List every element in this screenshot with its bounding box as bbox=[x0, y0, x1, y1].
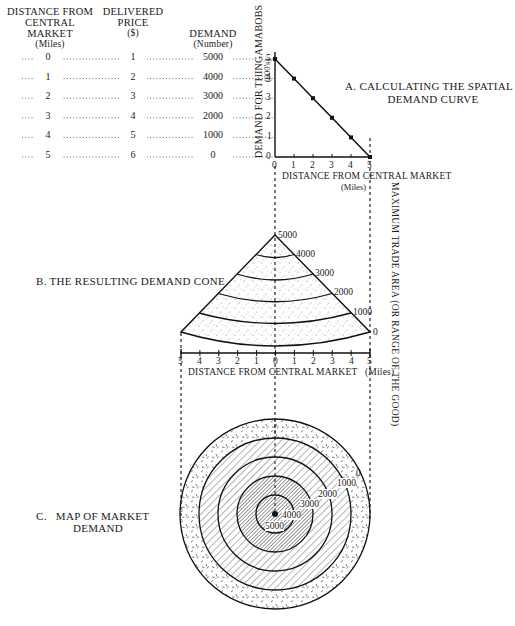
xtick: 1 bbox=[254, 356, 259, 366]
ytick: 5 bbox=[266, 53, 271, 63]
ytick: 0 bbox=[266, 151, 271, 161]
cone-label-0: 0 bbox=[373, 327, 378, 337]
xtick: 3 bbox=[329, 160, 334, 170]
cell-price: 5 bbox=[119, 129, 147, 140]
ytick: 1 bbox=[267, 131, 272, 141]
cell-demand: 3000 bbox=[194, 90, 232, 101]
cell-price: 1 bbox=[119, 51, 147, 62]
panel-b-title: B. THE RESULTING DEMAND CONE bbox=[36, 275, 225, 287]
cone-label-1000: 1000 bbox=[353, 307, 372, 317]
cell-price: 6 bbox=[119, 149, 147, 160]
xtick: 0 bbox=[272, 160, 277, 170]
cell-distance: 4 bbox=[33, 129, 63, 140]
ytick: 4 bbox=[266, 72, 271, 82]
xtick: 5 bbox=[367, 160, 372, 170]
map-label-3000: 3000 bbox=[300, 499, 319, 509]
xtick: 4 bbox=[348, 160, 353, 170]
cell-distance: 2 bbox=[33, 90, 63, 101]
panel-a-xlabel: DISTANCE FROM CENTRAL MARKET bbox=[282, 171, 451, 181]
map-label-2000: 2000 bbox=[318, 489, 337, 499]
cell-price: 2 bbox=[119, 71, 147, 82]
cell-demand: 0 bbox=[194, 149, 232, 160]
cone-label-4000: 4000 bbox=[296, 249, 315, 259]
map-label-0: 0 bbox=[356, 468, 361, 478]
panel-a-title: A. CALCULATING THE SPATIAL DEMAND CURVE bbox=[348, 80, 515, 105]
xtick: 3 bbox=[330, 356, 335, 366]
panel-c-title-line1: C. MAP OF MARKET bbox=[36, 510, 149, 522]
cell-price: 4 bbox=[119, 110, 147, 121]
cell-price: 3 bbox=[119, 90, 147, 101]
ytick: 2 bbox=[266, 111, 271, 121]
xtick: 4 bbox=[197, 356, 202, 366]
xtick: 4 bbox=[349, 356, 354, 366]
cell-demand: 2000 bbox=[194, 110, 232, 121]
cell-distance: 0 bbox=[33, 51, 63, 62]
max-trade-area-label: MAXIMUM TRADE AREA (OR RANGE OF THE GOOD… bbox=[390, 182, 400, 426]
xtick: 0 bbox=[273, 356, 278, 366]
panel-a-title-line2: DEMAND CURVE bbox=[348, 93, 515, 105]
xtick: 3 bbox=[216, 356, 221, 366]
xtick: 2 bbox=[311, 356, 316, 366]
demand-curve-line bbox=[275, 59, 370, 157]
xtick: 5 bbox=[178, 356, 183, 366]
panel-a-title-line1: A. CALCULATING THE SPATIAL bbox=[340, 80, 515, 92]
panel-b-xlabel: DISTANCE FROM CENTRAL MARKET (Miles) bbox=[188, 367, 394, 377]
map-label-4000: 4000 bbox=[282, 510, 301, 520]
xtick: 5 bbox=[367, 356, 372, 366]
cell-demand: 5000 bbox=[194, 51, 232, 62]
cell-distance: 3 bbox=[33, 110, 63, 121]
panel-c-title-line2: DEMAND bbox=[73, 522, 149, 534]
xtick: 2 bbox=[235, 356, 240, 366]
cell-demand: 4000 bbox=[194, 71, 232, 82]
cone-label-2000: 2000 bbox=[334, 287, 353, 297]
market-demand-map bbox=[180, 419, 370, 609]
cone-label-5000: 5000 bbox=[278, 230, 297, 240]
ytick: 3 bbox=[266, 92, 271, 102]
xtick: 2 bbox=[310, 160, 315, 170]
cone-label-3000: 3000 bbox=[315, 268, 334, 278]
map-label-1000: 1000 bbox=[337, 478, 356, 488]
panel-a-xlabel-unit: (Miles) bbox=[341, 182, 366, 192]
map-label-5000: 5000 bbox=[265, 521, 284, 531]
xtick: 1 bbox=[291, 160, 296, 170]
panel-c-title: C. MAP OF MARKET DEMAND bbox=[36, 510, 149, 534]
cell-demand: 1000 bbox=[194, 129, 232, 140]
xtick: 1 bbox=[292, 356, 297, 366]
cell-distance: 1 bbox=[33, 71, 63, 82]
cell-distance: 5 bbox=[33, 149, 63, 160]
